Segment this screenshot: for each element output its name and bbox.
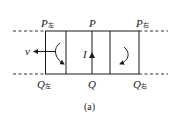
label-p-mid: P <box>88 17 96 29</box>
label-q-right: Q右 <box>133 78 147 90</box>
label-q-left: Q左 <box>37 78 51 90</box>
current-arrow-icon <box>89 52 95 58</box>
diagram-canvas: v I P左 P P右 Q左 Q Q右 (a) <box>0 0 175 117</box>
label-p-right: P右 <box>135 17 149 29</box>
label-q-mid: Q <box>88 78 96 90</box>
velocity-label: v <box>25 45 30 57</box>
label-p-left: P左 <box>40 17 54 29</box>
current-label: I <box>82 48 88 60</box>
dashed-rails <box>13 31 168 74</box>
figure-caption: (a) <box>84 101 95 113</box>
left-loop-arrow-icon <box>55 43 64 64</box>
right-loop-arrow-icon <box>120 47 128 64</box>
